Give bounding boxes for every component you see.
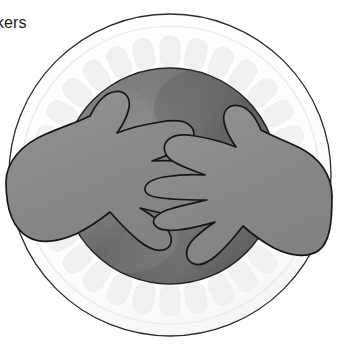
plate-and-hands-illustration xyxy=(0,0,338,347)
caption-text: kers xyxy=(0,14,27,32)
illustration-canvas: kers xyxy=(0,0,338,347)
